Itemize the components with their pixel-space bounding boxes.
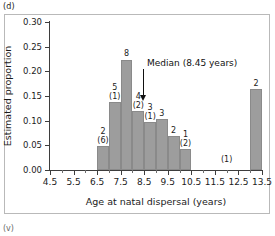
y-tick-label: 0.30	[23, 17, 42, 27]
bottom-panel-label: (v)	[3, 224, 14, 234]
median-arrow-shaft	[143, 69, 144, 97]
y-tick-label: 0.25	[23, 42, 42, 52]
x-tick-label: 5.5	[66, 177, 80, 187]
x-tick-minor	[203, 170, 204, 173]
y-axis-title: Estimated proportion	[2, 46, 13, 147]
y-tick-label: 0.05	[23, 140, 42, 150]
ghost-count-label: (1)	[221, 155, 232, 164]
x-tick-label: 7.5	[113, 177, 127, 187]
bar-censored-count: (2)	[133, 101, 144, 110]
plot-area: 0.000.050.100.150.200.250.304.55.56.57.5…	[50, 22, 262, 170]
bar-count-label: 2	[171, 126, 176, 135]
x-tick-minor	[132, 170, 133, 173]
median-annotation-label: Median (8.45 years)	[147, 58, 237, 68]
bar-count-label: 8	[124, 49, 129, 58]
x-tick-minor	[85, 170, 86, 173]
y-tick	[45, 96, 50, 97]
x-axis-title: Age at natal dispersal (years)	[86, 196, 226, 207]
bar-count-label: 1(2)	[180, 130, 191, 148]
x-tick-label: 6.5	[90, 177, 104, 187]
x-tick	[121, 170, 122, 175]
bar-count-value: 1	[183, 130, 188, 139]
y-tick	[45, 22, 50, 23]
bar-count-value: 5	[112, 83, 117, 92]
bar-censored-count: (1)	[144, 112, 155, 121]
histogram-bar	[144, 122, 156, 170]
x-tick	[238, 170, 239, 175]
x-tick	[144, 170, 145, 175]
bar-censored-count: (6)	[97, 136, 108, 145]
x-tick-minor	[62, 170, 63, 173]
x-tick-minor	[109, 170, 110, 173]
bar-censored-count: (1)	[109, 92, 120, 101]
bar-count-value: 2	[254, 79, 259, 88]
histogram-bar	[97, 146, 109, 170]
x-tick-minor	[227, 170, 228, 173]
y-tick-label: 0.00	[23, 165, 42, 175]
bar-count-label: 2(6)	[97, 127, 108, 145]
bar-count-value: 3	[159, 109, 164, 118]
bar-censored-count: (2)	[180, 139, 191, 148]
bar-count-label: 3(1)	[144, 103, 155, 121]
histogram-bar	[168, 136, 180, 170]
bar-count-label: 5(1)	[109, 83, 120, 101]
histogram-bar	[121, 60, 133, 171]
x-tick	[168, 170, 169, 175]
bar-count-value: 2	[100, 127, 105, 136]
median-arrow-head	[140, 95, 146, 101]
x-tick	[97, 170, 98, 175]
histogram-bar	[156, 119, 168, 170]
x-tick-label: 10.5	[181, 177, 201, 187]
bar-count-value: 8	[124, 49, 129, 58]
histogram-bar	[132, 111, 144, 170]
histogram-bar	[180, 149, 192, 170]
x-tick-label: 13.5	[252, 177, 272, 187]
bar-count-value: 2	[171, 126, 176, 135]
x-tick-label: 8.5	[137, 177, 151, 187]
x-tick-minor	[156, 170, 157, 173]
y-tick-label: 0.10	[23, 116, 42, 126]
x-tick-label: 4.5	[43, 177, 57, 187]
x-tick	[262, 170, 263, 175]
histogram-bar	[250, 89, 262, 170]
x-tick-minor	[180, 170, 181, 173]
x-tick	[50, 170, 51, 175]
bar-count-value: 3	[148, 103, 153, 112]
x-tick-label: 12.5	[228, 177, 248, 187]
y-tick	[45, 47, 50, 48]
panel-label: (d)	[3, 2, 15, 11]
y-tick	[45, 121, 50, 122]
x-tick	[74, 170, 75, 175]
x-tick	[215, 170, 216, 175]
x-tick-label: 11.5	[205, 177, 225, 187]
y-tick	[45, 145, 50, 146]
x-tick	[191, 170, 192, 175]
y-tick	[45, 71, 50, 72]
y-tick-label: 0.15	[23, 91, 42, 101]
y-tick-label: 0.20	[23, 66, 42, 76]
x-tick-label: 9.5	[161, 177, 175, 187]
bar-count-label: 3	[159, 109, 164, 118]
histogram-bar	[109, 102, 121, 170]
x-tick-minor	[250, 170, 251, 173]
bar-count-label: 2	[254, 79, 259, 88]
